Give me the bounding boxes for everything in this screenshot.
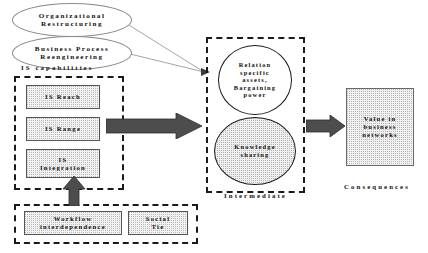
ellipse-business-process-reengineering-label: Business Process Reengineering bbox=[35, 45, 110, 62]
box-is-range[interactable]: IS Range bbox=[26, 117, 100, 141]
box-workflow-interdependence[interactable]: Workflow interdependence bbox=[24, 211, 122, 235]
ellipse-relation-specific-assets-label: Relation specific assets, Bargaining pow… bbox=[234, 61, 277, 99]
ellipse-relation-specific-assets[interactable]: Relation specific assets, Bargaining pow… bbox=[218, 45, 292, 115]
arrow-bottom-antecedents-to-is-capabilities bbox=[62, 176, 86, 206]
box-value-in-business-networks[interactable]: Value in business networks bbox=[346, 88, 414, 166]
box-social-tie[interactable]: Social Tie bbox=[128, 211, 188, 235]
box-is-reach[interactable]: IS Reach bbox=[26, 85, 100, 109]
arrow-is-capabilities-to-intermediate bbox=[106, 113, 204, 139]
consequences-caption: Consequences bbox=[344, 183, 410, 190]
box-is-integration-label: IS Integration bbox=[40, 156, 86, 172]
diagram-canvas: Organizational Restructuring Business Pr… bbox=[0, 0, 428, 253]
line-business-process-reengineering-to-intermediate bbox=[122, 52, 204, 72]
box-is-reach-label: IS Reach bbox=[45, 93, 81, 101]
ellipse-organizational-restructuring-label: Organizational Restructuring bbox=[39, 12, 106, 29]
box-is-range-label: IS Range bbox=[45, 125, 81, 133]
intermediate-caption: Intermediate bbox=[224, 192, 287, 199]
ellipse-organizational-restructuring[interactable]: Organizational Restructuring bbox=[12, 3, 132, 37]
arrow-intermediate-to-consequences bbox=[306, 115, 346, 137]
is-capabilities-caption: IS capabilities bbox=[21, 64, 93, 71]
line-organizational-restructuring-to-intermediate bbox=[124, 22, 204, 72]
box-value-in-business-networks-label: Value in business networks bbox=[362, 115, 398, 138]
box-social-tie-label: Social Tie bbox=[146, 215, 171, 231]
box-is-integration[interactable]: IS Integration bbox=[26, 149, 100, 178]
box-workflow-interdependence-label: Workflow interdependence bbox=[40, 215, 106, 231]
ellipse-knowledge-sharing-label: Knowledge sharing bbox=[234, 143, 275, 158]
ellipse-knowledge-sharing[interactable]: Knowledge sharing bbox=[214, 117, 296, 185]
